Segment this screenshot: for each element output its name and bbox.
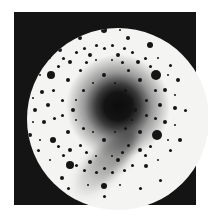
diffraction-spot (173, 106, 177, 110)
diffraction-field (27, 28, 208, 210)
diffraction-spot (42, 120, 46, 124)
diffraction-spot (149, 145, 152, 148)
diffraction-spot (82, 89, 85, 92)
diffraction-spot (60, 176, 64, 180)
diffraction-spot (66, 161, 74, 169)
diffraction-spot (101, 183, 107, 189)
diffraction-spot (40, 90, 44, 94)
diffraction-spot (66, 130, 70, 134)
diffraction-spot (47, 179, 50, 182)
diffraction-spot (83, 47, 86, 50)
diffraction-spot (28, 133, 32, 137)
diffraction-spot (163, 88, 167, 92)
diffraction-spot (87, 29, 89, 31)
diffraction-spot (71, 108, 75, 112)
diffraction-spot (136, 60, 140, 64)
diffraction-spot (126, 36, 130, 40)
diffraction-spot (139, 28, 142, 30)
diffraction-spot (58, 48, 62, 52)
diffraction-spot (178, 138, 182, 142)
diffraction-spot (85, 151, 88, 154)
diffraction-spot (75, 164, 78, 167)
diffraction-spot (144, 154, 147, 157)
diffraction-spot (103, 167, 106, 170)
diffraction-spot (57, 65, 60, 68)
diffraction-spot (88, 53, 92, 57)
diffraction-spot (133, 108, 137, 112)
dark-frame (14, 12, 196, 205)
diffraction-spot (169, 64, 172, 67)
diffraction-spot (57, 145, 60, 148)
diffraction-spot (159, 34, 162, 37)
diffraction-spot (79, 69, 82, 72)
diffraction-spot (154, 117, 157, 120)
diffraction-spot (123, 47, 126, 50)
diffraction-spot (61, 99, 64, 102)
diffraction-spot (75, 51, 78, 54)
diffraction-spot (79, 144, 82, 147)
diffraction-spot (169, 149, 172, 152)
diffraction-spot (116, 53, 120, 57)
diffraction-spot (82, 127, 85, 130)
diffraction-spot (121, 151, 124, 154)
diffraction-spot (88, 160, 92, 164)
diffraction-spot (103, 195, 106, 198)
diffraction-spot (33, 108, 37, 112)
diffraction-spot (147, 42, 153, 48)
diffraction-spot (131, 164, 134, 167)
diffraction-spot (138, 148, 142, 152)
diffraction-spot (50, 137, 56, 143)
diffraction-spot (152, 130, 162, 140)
diffraction-spot (144, 57, 147, 60)
diffraction-spot (52, 89, 55, 92)
diffraction-spot (47, 34, 50, 37)
diffraction-spot (163, 120, 167, 124)
diffraction-spot (46, 103, 50, 107)
diffraction-spot (116, 158, 120, 162)
diffraction-spot (62, 57, 65, 60)
diffraction-spot (159, 179, 162, 182)
diffraction-spot (95, 44, 98, 47)
diffraction-spot (158, 103, 162, 107)
diffraction-spot (28, 83, 32, 87)
diffraction-spot (67, 28, 70, 30)
diffraction-spot (138, 130, 142, 134)
diffraction-spot (121, 61, 124, 64)
diffraction-spot (123, 169, 126, 172)
diffraction-spot (95, 171, 98, 174)
diffraction-spot (124, 127, 127, 130)
diffraction-spot (131, 51, 134, 54)
diffraction-spot (184, 109, 187, 112)
diffraction-spot (176, 78, 180, 82)
diffraction-spot (102, 73, 106, 77)
diffraction-spot (85, 61, 88, 64)
diffraction-spot (83, 169, 86, 172)
diffraction-spot (47, 71, 55, 79)
diffraction-spot (37, 149, 40, 152)
diffraction-spot (53, 117, 56, 120)
diffraction-spot (66, 78, 70, 82)
diffraction-spot (145, 99, 148, 102)
diffraction-spot (37, 64, 40, 67)
diffraction-spot (111, 44, 114, 47)
diffraction-spot (61, 114, 64, 117)
diffraction-spot (151, 70, 161, 80)
diffraction-spot (149, 65, 152, 68)
diffraction-spot (68, 148, 72, 152)
diffraction-spot (139, 187, 142, 190)
diffraction-spot (138, 78, 142, 82)
diffraction-spot (102, 138, 106, 142)
diffraction-spot (127, 69, 130, 72)
diffraction-spot (127, 144, 130, 147)
diffraction-spot (124, 89, 127, 92)
diffraction-spot (154, 89, 157, 92)
diffraction-spot (103, 47, 106, 50)
diffraction-spot (111, 171, 114, 174)
diffraction-spot (67, 187, 70, 190)
diffraction-spot (145, 114, 148, 117)
diffraction-spot (78, 36, 82, 40)
diffraction-spot (144, 164, 148, 168)
diffraction-spot (68, 60, 72, 64)
diffraction-spot (62, 154, 65, 157)
